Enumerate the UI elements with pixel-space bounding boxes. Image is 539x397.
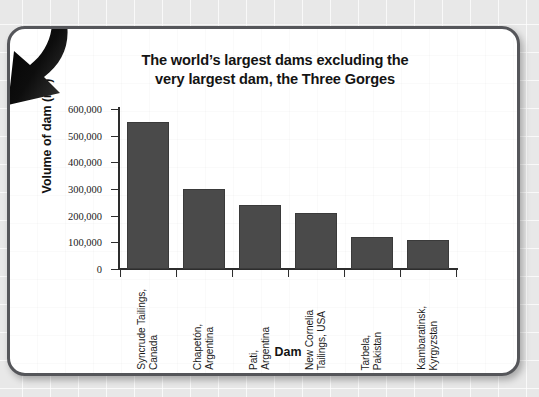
bar [239,205,281,269]
y-axis-tick [111,136,119,137]
x-axis-category-label-line: Syncrude Tailings, [137,289,147,370]
y-axis-tick [111,189,119,190]
x-axis-category-tick [176,270,177,277]
x-axis-category-label: Syncrude Tailings,Canada [126,278,170,370]
x-axis-category-tick [344,270,345,277]
y-axis-tick-label: 200,000 [40,210,102,221]
x-axis-category-label-line: Chapetón, [193,324,203,370]
chart-plot-area: Volume of dam (m³) 600,000500,000400,000… [10,29,517,373]
x-axis-category-tick [456,270,457,277]
x-axis-category-label: Tarbela,Pakistan [350,278,394,370]
y-axis-tick-label: 600,000 [40,104,102,115]
x-axis-category-label: Kambaratinsk,Kyrgyzstan [406,278,450,370]
bar [295,213,337,269]
y-axis-tick-label: 400,000 [40,157,102,168]
x-axis-category-label-line: Tailings, USA [317,311,327,370]
bar [183,189,225,269]
y-axis-tick [111,109,119,110]
x-axis-category-label-line: New Cornelia [305,310,315,370]
bar [127,122,169,269]
x-axis-category-label-line: Argentina [205,327,215,370]
y-axis-tick [111,242,119,243]
x-axis-title: Dam [238,345,338,359]
y-axis-tick [111,162,119,163]
slide-frame: The world’s largest dams excluding the v… [7,26,520,376]
x-axis-category-tick [232,270,233,277]
y-axis-tick-label: 0 [40,264,102,275]
bar [407,240,449,269]
x-axis-category-label-line: Kambaratinsk, [417,306,427,370]
x-axis-category-label-line: Kyrgyzstan [429,321,439,370]
y-axis-tick-label: 100,000 [40,237,102,248]
x-axis-category-label-line: Tarbela, [361,335,371,370]
y-axis-tick [111,269,119,270]
bar [351,237,393,269]
x-axis-category-tick [120,270,121,277]
y-axis-tick-label: 500,000 [40,130,102,141]
x-axis-category-tick [288,270,289,277]
y-axis-tick [111,216,119,217]
x-axis-category-label: Chapetón,Argentina [182,278,226,370]
y-axis-tick-label: 300,000 [40,184,102,195]
x-axis-category-label-line: Canada [149,335,159,370]
x-axis-category-tick [400,270,401,277]
x-axis-category-label-line: Pakistan [373,332,383,370]
